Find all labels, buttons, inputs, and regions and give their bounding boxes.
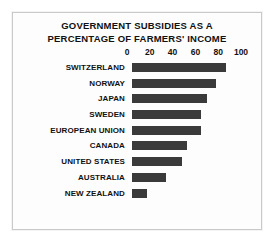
chart-title-line-2: PERCENTAGE OF FARMERS' INCOME xyxy=(19,33,255,46)
bar xyxy=(132,189,147,198)
bar xyxy=(132,110,201,119)
bar-category-label: AUSTRALIA xyxy=(13,172,125,183)
bar-row: SWITZERLAND xyxy=(13,62,261,78)
bar-track xyxy=(132,126,255,135)
x-tick-label: 40 xyxy=(168,47,177,57)
bar-row: AUSTRALIA xyxy=(13,172,261,188)
bar-track xyxy=(132,157,255,166)
bar-category-label: UNITED STATES xyxy=(13,156,125,167)
bar xyxy=(132,157,182,166)
x-tick-label: 20 xyxy=(145,47,154,57)
bar-track xyxy=(132,63,255,72)
x-tick-label: 0 xyxy=(125,47,130,57)
chart-title: GOVERNMENT SUBSIDIES AS A PERCENTAGE OF … xyxy=(13,13,261,45)
bar-row: UNITED STATES xyxy=(13,156,261,172)
chart-card: GOVERNMENT SUBSIDIES AS A PERCENTAGE OF … xyxy=(12,12,262,230)
bar-track xyxy=(132,189,255,198)
bar-category-label: EUROPEAN UNION xyxy=(13,125,125,136)
bar-category-label: NEW ZEALAND xyxy=(13,188,125,199)
bar-category-label: CANADA xyxy=(13,140,125,151)
bar-row: CANADA xyxy=(13,140,261,156)
bar-track xyxy=(132,94,255,103)
x-tick-label: 100 xyxy=(234,47,248,57)
bar-track xyxy=(132,173,255,182)
bar-category-label: SWITZERLAND xyxy=(13,62,125,73)
bar xyxy=(132,141,187,150)
x-tick-label: 80 xyxy=(213,47,222,57)
bar-row: NORWAY xyxy=(13,78,261,94)
bar-row: SWEDEN xyxy=(13,109,261,125)
bar-row: JAPAN xyxy=(13,93,261,109)
x-tick-label: 60 xyxy=(191,47,200,57)
bar-category-label: JAPAN xyxy=(13,93,125,104)
x-axis-tick-labels: 020406080100 xyxy=(127,47,257,60)
bar-track xyxy=(132,79,255,88)
bar-rows: SWITZERLANDNORWAYJAPANSWEDENEUROPEAN UNI… xyxy=(13,62,261,203)
bar xyxy=(132,79,216,88)
chart-title-line-1: GOVERNMENT SUBSIDIES AS A xyxy=(19,20,255,33)
plot-area: 020406080100 SWITZERLANDNORWAYJAPANSWEDE… xyxy=(13,47,261,229)
bar xyxy=(132,63,226,72)
bar-category-label: SWEDEN xyxy=(13,109,125,120)
bar-row: EUROPEAN UNION xyxy=(13,125,261,141)
bar-row: NEW ZEALAND xyxy=(13,188,261,204)
bar-track xyxy=(132,110,255,119)
bar-track xyxy=(132,141,255,150)
bar-category-label: NORWAY xyxy=(13,78,125,89)
bar xyxy=(132,94,207,103)
bar xyxy=(132,126,201,135)
bar xyxy=(132,173,166,182)
